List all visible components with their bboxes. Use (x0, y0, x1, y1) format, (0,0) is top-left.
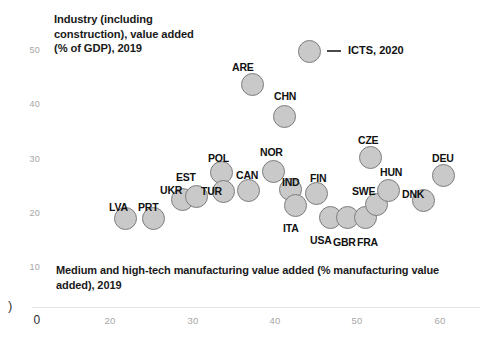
data-point-label: ARE (232, 61, 254, 73)
data-point-label: FRA (357, 236, 378, 248)
data-point-bubble (237, 179, 260, 202)
x-axis-title: Medium and high-tech manufacturing value… (56, 263, 446, 293)
x-axis-tick-label: 40 (260, 315, 290, 326)
data-point-label: LVA (109, 201, 128, 213)
data-point-label: CAN (236, 169, 258, 181)
y-axis-tick-label: 40 (18, 99, 40, 109)
data-point-label: POL (208, 152, 229, 164)
data-point-label: FIN (310, 172, 326, 184)
bubble-chart: Industry (including construction), value… (0, 0, 480, 356)
y-axis-title: Industry (including construction), value… (54, 12, 204, 56)
y-axis-tick-label: 20 (18, 208, 40, 218)
data-point-bubble (305, 182, 328, 205)
data-point-label: CZE (358, 134, 378, 146)
data-point-label: NOR (260, 146, 283, 158)
data-point-label: HUN (380, 166, 402, 178)
x-axis-line (32, 307, 480, 308)
x-axis-tick-label: 30 (178, 315, 208, 326)
data-point-label: PRT (138, 201, 158, 213)
data-point-label: GBR (333, 236, 356, 248)
data-point-bubble (432, 164, 455, 187)
data-point-label: CHN (274, 90, 296, 102)
data-point-label: TUR (201, 185, 222, 197)
x-axis-tick-label: 50 (342, 315, 372, 326)
legend-label: ICTS, 2020 (348, 44, 404, 56)
y-axis-tick-label: 50 (18, 45, 40, 55)
data-point-bubble (273, 105, 296, 128)
data-point-bubble (359, 146, 382, 169)
data-point-label: IND (282, 176, 299, 188)
legend-leader-line (327, 50, 341, 52)
data-point-label: UKR (160, 184, 182, 196)
data-point-label: DNK (402, 188, 424, 200)
data-point-bubble (241, 73, 264, 96)
y-axis-tick-label: 30 (18, 154, 40, 164)
x-axis-tick-label: 0 (22, 313, 52, 327)
data-point-label: EST (176, 171, 196, 183)
data-point-label: DEU (432, 152, 454, 164)
x-axis-tick-label: 60 (425, 315, 455, 326)
x-axis-tick-label: 20 (95, 315, 125, 326)
legend-bubble-marker-icon (298, 40, 321, 63)
y-axis-tick-label: 10 (18, 262, 40, 272)
data-point-bubble (284, 194, 307, 217)
data-point-bubble (377, 179, 400, 202)
data-point-label: USA (310, 234, 332, 246)
stray-paren-glyph: ) (8, 298, 12, 313)
data-point-label: ITA (283, 222, 299, 234)
data-point-label: SWE (352, 185, 375, 197)
